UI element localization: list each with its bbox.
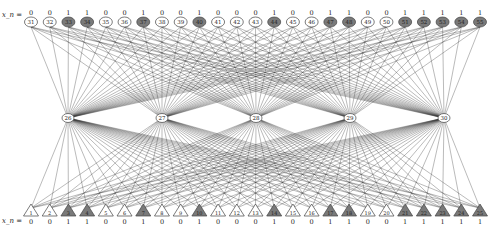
edge: [68, 118, 368, 208]
bottom-node[interactable]: 150: [285, 204, 300, 226]
bottom-node[interactable]: 20: [42, 204, 57, 226]
bottom-node[interactable]: 60: [117, 204, 132, 226]
bottom-node[interactable]: 200: [379, 204, 394, 226]
bottom-node[interactable]: 31: [61, 204, 76, 226]
bottom-node[interactable]: 211: [398, 204, 413, 226]
bottom-node[interactable]: 221: [416, 204, 431, 226]
edge: [68, 118, 106, 208]
bottom-node-value: 0: [104, 218, 108, 226]
top-node-value: 0: [253, 9, 257, 17]
top-node-id: 37: [140, 19, 147, 25]
top-node[interactable]: 380: [155, 9, 168, 27]
bottom-node[interactable]: 190: [360, 204, 375, 226]
bottom-node-value: 0: [384, 218, 388, 226]
edge: [405, 27, 444, 118]
bottom-node-value: 0: [235, 218, 239, 226]
middle-node-id: 27: [159, 115, 166, 121]
top-node-id: 40: [196, 19, 203, 25]
edge: [68, 118, 424, 208]
edge: [68, 27, 87, 118]
edge: [68, 118, 87, 208]
middle-node[interactable]: 29: [344, 114, 356, 123]
bottom-node[interactable]: 231: [435, 204, 450, 226]
edge: [68, 118, 293, 208]
top-node[interactable]: 511: [399, 9, 412, 27]
bottom-node-id: 17: [327, 210, 333, 216]
bottom-node[interactable]: 71: [136, 204, 151, 226]
edge: [256, 27, 461, 118]
top-node[interactable]: 541: [455, 9, 468, 27]
top-node[interactable]: 390: [174, 9, 187, 27]
bottom-node-id: 4: [86, 210, 89, 216]
top-node[interactable]: 551: [474, 9, 487, 27]
top-node[interactable]: 331: [62, 9, 75, 27]
top-node[interactable]: 450: [286, 9, 299, 27]
top-node-id: 52: [420, 19, 427, 25]
top-node-value: 0: [235, 9, 239, 17]
top-node-id: 47: [327, 19, 334, 25]
bottom-node[interactable]: 90: [173, 204, 188, 226]
middle-node[interactable]: 28: [250, 114, 262, 123]
bottom-node[interactable]: 251: [473, 204, 488, 226]
top-node-id: 44: [271, 19, 278, 25]
top-node[interactable]: 360: [118, 9, 131, 27]
bottom-node[interactable]: 160: [304, 204, 319, 226]
bottom-node[interactable]: 80: [154, 204, 169, 226]
bottom-node[interactable]: 41: [80, 204, 95, 226]
bottom-node[interactable]: 120: [229, 204, 244, 226]
top-node[interactable]: 320: [43, 9, 56, 27]
edge: [68, 118, 199, 208]
top-node-id: 54: [458, 19, 465, 25]
bottom-node[interactable]: 171: [323, 204, 338, 226]
top-node-value: 1: [422, 9, 426, 17]
bottom-node[interactable]: 130: [248, 204, 263, 226]
bottom-node-value: 1: [328, 218, 332, 226]
top-node[interactable]: 471: [324, 9, 337, 27]
top-node[interactable]: 490: [361, 9, 374, 27]
bottom-node-id: 1: [29, 210, 32, 216]
top-node-id: 42: [233, 19, 240, 25]
bottom-row-label: x_n =: [2, 217, 22, 225]
middle-node[interactable]: 26: [62, 114, 74, 123]
top-node[interactable]: 430: [249, 9, 262, 27]
top-node[interactable]: 401: [193, 9, 206, 27]
middle-node[interactable]: 30: [438, 114, 450, 123]
top-node[interactable]: 460: [305, 9, 318, 27]
edge: [68, 27, 274, 118]
bottom-node[interactable]: 101: [192, 204, 207, 226]
bottom-node-id: 23: [439, 210, 445, 216]
bottom-node[interactable]: 110: [211, 204, 226, 226]
top-node-id: 45: [289, 19, 296, 25]
bottom-node[interactable]: 141: [267, 204, 282, 226]
top-node[interactable]: 420: [230, 9, 243, 27]
top-node[interactable]: 371: [137, 9, 150, 27]
top-node[interactable]: 350: [99, 9, 112, 27]
bottom-node[interactable]: 10: [24, 204, 39, 226]
middle-node-id: 26: [65, 115, 72, 121]
bottom-node[interactable]: 241: [454, 204, 469, 226]
top-node[interactable]: 500: [380, 9, 393, 27]
top-node[interactable]: 410: [212, 9, 225, 27]
top-node-id: 50: [383, 19, 390, 25]
bottom-node-value: 0: [122, 218, 126, 226]
bottom-node[interactable]: 50: [98, 204, 113, 226]
bottom-node-id: 7: [142, 210, 145, 216]
bottom-node-id: 24: [458, 210, 464, 216]
top-node[interactable]: 341: [81, 9, 94, 27]
top-node[interactable]: 441: [268, 9, 281, 27]
bottom-node-value: 0: [160, 218, 164, 226]
top-node-id: 46: [308, 19, 315, 25]
bottom-node-value: 1: [422, 218, 426, 226]
top-node[interactable]: 310: [25, 9, 38, 27]
bottom-node-value: 0: [216, 218, 220, 226]
top-node[interactable]: 521: [417, 9, 430, 27]
bottom-node-id: 11: [215, 210, 221, 216]
top-node-value: 0: [48, 9, 52, 17]
network-diagram: 3103203313413503603713803904014104204304…: [0, 0, 499, 236]
top-node[interactable]: 481: [343, 9, 356, 27]
bottom-node[interactable]: 181: [342, 204, 357, 226]
top-node[interactable]: 531: [436, 9, 449, 27]
edge: [443, 118, 444, 208]
middle-node[interactable]: 27: [156, 114, 168, 123]
bottom-node-id: 9: [179, 210, 182, 216]
